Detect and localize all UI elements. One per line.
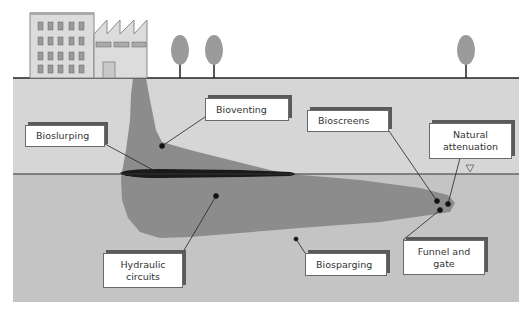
label-bioscreens: Bioscreens <box>307 110 389 132</box>
tree-icon <box>457 35 475 78</box>
label-bioslurping: Bioslurping <box>25 125 105 147</box>
factory-icon <box>94 20 147 78</box>
natural-attenuation-point <box>446 202 451 207</box>
label-natural-attenuation: Natural attenuation <box>429 123 512 159</box>
label-hydraulic-circuits: Hydraulic circuits <box>103 253 183 288</box>
biosparging-point <box>294 237 298 241</box>
label-text: Biosparging <box>316 259 372 271</box>
bioscreens-point <box>435 199 440 204</box>
tree-icon <box>205 35 223 78</box>
funnel-gate-point <box>438 208 443 213</box>
label-funnel-and-gate: Funnel and gate <box>403 240 485 275</box>
label-text: Natural attenuation <box>443 129 498 153</box>
label-text: Bioventing <box>216 104 267 116</box>
label-text: Bioslurping <box>36 130 89 142</box>
bioventing-point <box>160 144 165 149</box>
label-text: Hydraulic circuits <box>120 259 165 283</box>
tree-icon <box>171 35 189 78</box>
label-biosparging: Biosparging <box>305 253 387 276</box>
hydraulic-point <box>214 194 219 199</box>
office-building-icon <box>30 12 94 78</box>
label-text: Bioscreens <box>318 115 370 127</box>
label-text: Funnel and gate <box>418 246 470 270</box>
label-bioventing: Bioventing <box>205 98 289 121</box>
